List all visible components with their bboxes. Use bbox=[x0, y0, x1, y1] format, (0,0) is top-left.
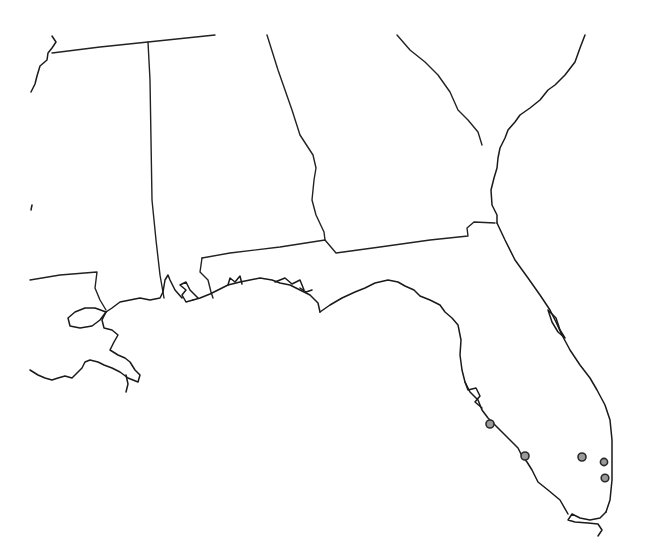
map-point-marker[interactable] bbox=[521, 452, 529, 460]
lake-pontchartrain bbox=[68, 308, 106, 328]
alabama-georgia-border bbox=[267, 35, 325, 240]
map-point-marker[interactable] bbox=[486, 420, 494, 428]
florida-southern-tip bbox=[568, 512, 606, 536]
alabama-florida-western-border bbox=[200, 258, 213, 298]
distribution-map bbox=[0, 0, 650, 545]
tennessee-southern-border bbox=[52, 35, 215, 53]
florida-east-coast bbox=[497, 223, 612, 512]
atlantic-coast-carolina bbox=[491, 35, 585, 223]
georgia-florida-border bbox=[202, 222, 495, 258]
map-point-marker[interactable] bbox=[601, 474, 609, 482]
mississippi-alabama-border bbox=[148, 42, 164, 298]
island-fragment bbox=[31, 205, 32, 210]
florida-west-coast bbox=[320, 280, 568, 514]
mississippi-river-fragment bbox=[31, 36, 56, 92]
louisiana-delta-coast bbox=[30, 312, 140, 382]
alabama-mississippi-coast bbox=[106, 275, 198, 312]
observation-points bbox=[486, 420, 609, 482]
mississippi-louisiana-border bbox=[30, 272, 106, 310]
map-point-marker[interactable] bbox=[578, 453, 586, 461]
georgia-south-carolina-border bbox=[397, 35, 482, 145]
map-point-marker[interactable] bbox=[600, 458, 607, 465]
